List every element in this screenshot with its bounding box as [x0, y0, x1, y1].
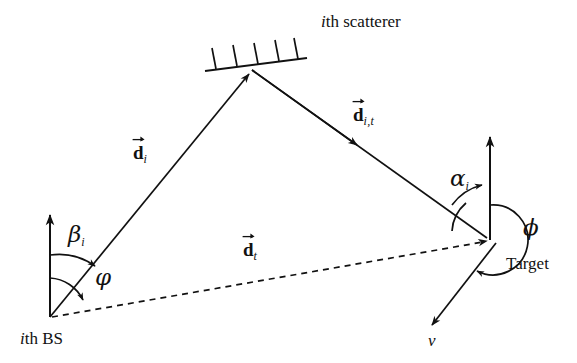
angle-label-beta-i: βi [68, 223, 85, 248]
angle-label-phi-target: ϕ [523, 216, 539, 239]
vector-symbol-d-i-t: d [353, 105, 364, 124]
target-label: Target [506, 255, 549, 272]
vector-subscript-d-i-t: i,t [364, 114, 375, 128]
vector-overarrow-icon [242, 231, 255, 239]
vector-d-i-t-line [252, 70, 487, 238]
vector-subscript-d-t: t [254, 249, 258, 263]
bs-label: ith BS [20, 330, 63, 347]
vector-base-d-i: d [133, 142, 144, 163]
angle-arc-beta-i [50, 254, 95, 266]
vector-velocity-line [432, 243, 496, 325]
angle-subscript-alpha: i [466, 179, 469, 193]
diagram-svg [0, 0, 577, 363]
angle-symbol-beta: β [68, 221, 81, 247]
bs-label-text: th BS [25, 329, 63, 348]
velocity-label: v [428, 332, 436, 349]
angle-subscript-beta: i [81, 235, 84, 249]
scatterer-label: ith scatterer [321, 13, 401, 30]
angle-symbol-phi-bs: φ [95, 264, 111, 290]
vector-overarrow-icon [132, 134, 145, 142]
angle-label-phi-bs: φ [95, 266, 111, 289]
angle-label-alpha-i: αi [450, 167, 469, 192]
vector-base-d-t: d [243, 239, 254, 260]
angle-symbol-phi-target: ϕ [523, 214, 539, 240]
vector-base-d-i-t: d [353, 104, 364, 125]
vector-label-d-i-t: d i,t [353, 105, 374, 127]
vector-label-d-i: d i [133, 143, 147, 165]
scatterer-surface [205, 38, 307, 71]
vector-d-i-line [50, 74, 249, 317]
vector-subscript-d-i: i [144, 152, 148, 166]
vector-symbol-d-t: d [243, 240, 254, 259]
vector-overarrow-icon [352, 96, 365, 104]
vector-symbol-d-i: d [133, 143, 144, 162]
vector-label-d-t: d t [243, 240, 257, 262]
figure-canvas: ith scatterer ith BS Target d i d i,t [0, 0, 577, 363]
scatterer-label-text: th scatterer [326, 12, 401, 31]
angle-symbol-alpha: α [450, 165, 466, 191]
vector-d-t-dashed-line [52, 241, 487, 317]
